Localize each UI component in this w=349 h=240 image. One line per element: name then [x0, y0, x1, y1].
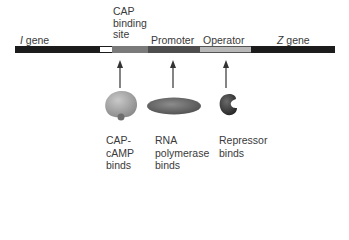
rna-polymerase-line1: RNA: [155, 134, 215, 147]
repressor-line1: Repressor: [219, 134, 279, 147]
repressor-line2: binds: [219, 147, 279, 160]
rna-polymerase-binds-label: RNA polymerase binds: [155, 134, 215, 172]
rna-polymerase-protein-icon: [147, 98, 201, 115]
rna-polymerase-line2: polymerase: [155, 147, 215, 160]
cap-camp-protein-icon: [105, 91, 137, 121]
repressor-binds-label: Repressor binds: [219, 134, 279, 159]
arrow-up-icon: [170, 60, 176, 88]
repressor-protein-icon: [220, 94, 237, 115]
arrow-up-icon: [117, 60, 123, 88]
arrow-up-icon: [223, 60, 229, 88]
rna-polymerase-line3: binds: [155, 159, 215, 172]
